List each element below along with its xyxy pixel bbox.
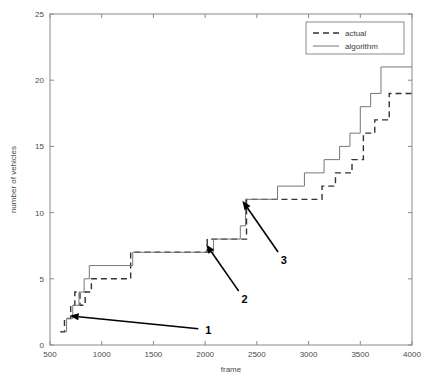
x-tick-label: 2000	[196, 350, 214, 359]
y-tick-label: 25	[35, 10, 44, 19]
legend-label-algorithm: algorithm	[345, 42, 378, 51]
y-tick-label: 20	[35, 76, 44, 85]
chart-svg: 5001000150020002500300035004000051015202…	[0, 0, 428, 382]
chart-figure: 5001000150020002500300035004000051015202…	[0, 0, 428, 382]
annotation-label-3: 3	[281, 254, 287, 266]
plot-frame	[50, 14, 412, 345]
y-axis-title: number of vehicles	[9, 146, 18, 213]
x-axis-title: frame	[221, 365, 242, 374]
x-tick-label: 500	[43, 350, 57, 359]
legend-label-actual: actual	[345, 29, 367, 38]
y-tick-label: 15	[35, 142, 44, 151]
y-tick-label: 0	[40, 341, 45, 350]
x-tick-label: 4000	[403, 350, 421, 359]
y-tick-label: 10	[35, 209, 44, 218]
y-tick-label: 5	[40, 275, 45, 284]
annotation-label-1: 1	[205, 324, 211, 336]
x-tick-label: 3000	[300, 350, 318, 359]
x-tick-label: 1000	[93, 350, 111, 359]
annotation-label-2: 2	[241, 293, 247, 305]
x-tick-label: 3500	[351, 350, 369, 359]
x-tick-label: 2500	[248, 350, 266, 359]
x-tick-label: 1500	[145, 350, 163, 359]
